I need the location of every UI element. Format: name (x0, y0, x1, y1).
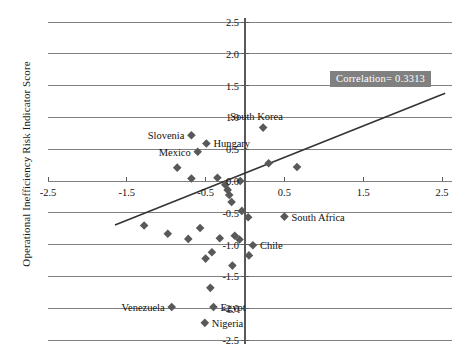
y-tick-label: 2.0 (213, 48, 239, 59)
data-point (259, 123, 268, 132)
x-tick-label: 1.5 (357, 187, 370, 198)
data-point (196, 224, 205, 233)
point-label-south-africa: South Africa (291, 211, 344, 222)
y-tick-label: -2.5 (213, 335, 239, 346)
data-point (140, 221, 149, 230)
data-point (173, 163, 182, 172)
scatter-chart: Operational Inefficiency Risk Indicator … (0, 0, 462, 355)
data-point (201, 319, 210, 328)
y-tick-label: -1.5 (213, 271, 239, 282)
data-point (163, 229, 172, 238)
point-label-venezuela: Venezuela (122, 301, 165, 312)
x-tick-label: -2.5 (40, 187, 57, 198)
data-point (184, 235, 193, 244)
data-point (293, 163, 302, 172)
point-label-egypt: Egypt (220, 301, 245, 312)
data-point (228, 261, 237, 270)
x-tick-label: -0.5 (197, 187, 214, 198)
y-tick-label: -1.0 (213, 239, 239, 250)
point-label-hungary: Hungary (213, 138, 250, 149)
point-label-mexico: Mexico (159, 146, 191, 157)
point-label-chile: Chile (260, 240, 283, 251)
point-label-slovenia: Slovenia (148, 130, 185, 141)
gridlines (48, 22, 452, 340)
point-label-nigeria: Nigeria (212, 317, 244, 328)
data-point (249, 241, 258, 250)
x-tick-label: 2.5 (435, 187, 448, 198)
y-tick-label: 1.5 (213, 80, 239, 91)
data-point (201, 254, 210, 263)
data-point (202, 139, 211, 148)
correlation-annotation: Correlation= 0.3313 (330, 71, 431, 87)
data-point (167, 303, 176, 312)
y-axis-title: Operational Inefficiency Risk Indicator … (20, 34, 32, 294)
data-point (206, 284, 215, 293)
point-label-south-korea: South Korea (230, 110, 283, 121)
data-point (187, 131, 196, 140)
data-point (264, 159, 273, 168)
data-point (245, 251, 254, 260)
y-tick-label: 2.5 (213, 17, 239, 28)
x-tick-label: -1.5 (118, 187, 135, 198)
data-point (280, 212, 289, 221)
data-point (227, 198, 236, 207)
x-tick-label: 0.5 (278, 187, 291, 198)
y-tick-label: -0.5 (213, 207, 239, 218)
y-tick-label: 0.0 (213, 176, 239, 187)
